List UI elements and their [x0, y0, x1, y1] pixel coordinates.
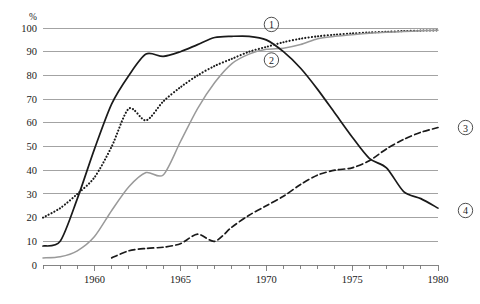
y-axis-tick-label: 80	[27, 70, 38, 81]
series-label-4: 4	[463, 205, 468, 216]
y-axis-tick-label: 60	[27, 117, 38, 128]
y-axis-tick-label: 50	[27, 141, 38, 152]
y-axis-tick-label: 0	[32, 260, 37, 271]
chart-canvas: 0102030405060708090100 19601965197019751…	[0, 0, 480, 304]
unit-label-group: %	[29, 12, 37, 22]
series-label-3: 3	[463, 123, 468, 134]
y-axis-labels-group: 0102030405060708090100	[21, 23, 37, 271]
series-label-2: 2	[269, 55, 274, 66]
y-axis-tick-label: 100	[21, 23, 37, 34]
series-line-2	[43, 30, 438, 258]
y-axis-tick-label: 10	[27, 236, 38, 247]
series-line-4	[43, 36, 438, 246]
y-axis-tick-label: 70	[27, 94, 38, 105]
series-line-3	[112, 128, 438, 258]
x-axis-labels-group: 19601965197019751980	[84, 274, 448, 285]
series-group	[43, 30, 438, 258]
series-label-1: 1	[269, 19, 274, 30]
y-axis-tick-label: 30	[27, 189, 38, 200]
tickmarks-group	[43, 265, 438, 271]
y-axis-unit-label: %	[29, 12, 37, 22]
y-axis-tick-label: 40	[27, 165, 38, 176]
x-axis-tick-label: 1965	[170, 274, 191, 285]
x-axis-tick-label: 1960	[84, 274, 105, 285]
line-chart: 0102030405060708090100 19601965197019751…	[0, 0, 480, 304]
gridlines-group	[43, 28, 438, 265]
y-axis-tick-label: 20	[27, 212, 38, 223]
x-axis-tick-label: 1970	[256, 274, 277, 285]
x-axis-tick-label: 1980	[428, 274, 449, 285]
y-axis-tick-label: 90	[27, 46, 38, 57]
x-axis-tick-label: 1975	[342, 274, 363, 285]
